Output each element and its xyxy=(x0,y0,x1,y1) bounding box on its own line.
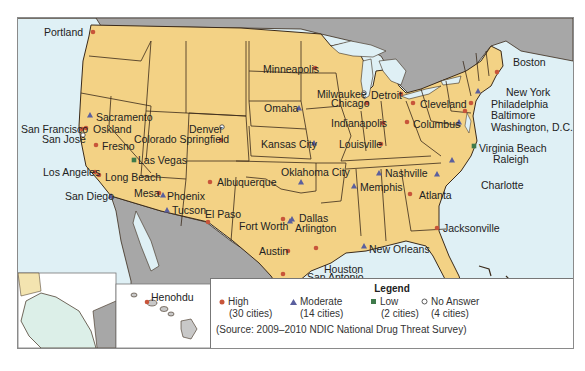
city-marker-high xyxy=(145,300,150,305)
legend: Legend High (30 cities) Moderate (14 cit… xyxy=(210,278,573,348)
city-marker-high xyxy=(314,246,319,251)
city-label: Cleveland xyxy=(420,98,467,110)
city-label: Raleigh xyxy=(493,153,529,165)
city-marker-high xyxy=(91,30,96,35)
city-marker-high xyxy=(206,220,211,225)
city-label: Boston xyxy=(513,56,546,68)
legend-item-low: Low (2 cities) xyxy=(371,296,419,320)
city-label: Austin xyxy=(259,245,288,257)
city-label: Las Vegas xyxy=(138,154,187,166)
city-label: Henohdu xyxy=(151,291,194,303)
low-square-icon xyxy=(371,296,377,308)
legend-item-moderate: Moderate (14 cities) xyxy=(290,296,343,320)
city-label: New York xyxy=(506,86,550,98)
city-marker-low xyxy=(472,144,477,149)
city-label: Long Beach xyxy=(105,171,161,183)
city-label: Memphis xyxy=(360,181,403,193)
city-label: San Diego xyxy=(65,190,114,202)
city-label: New Orleans xyxy=(369,243,430,255)
city-marker-high xyxy=(411,101,416,106)
city-label: Los Angeles xyxy=(43,166,100,178)
city-label: Baltimore xyxy=(491,109,535,121)
legend-source: (Source: 2009–2010 NDIC National Drug Th… xyxy=(216,324,467,335)
city-marker-low xyxy=(132,158,137,163)
city-label: Indianapolis xyxy=(331,117,387,129)
city-marker-high xyxy=(208,180,213,185)
city-label: Charlotte xyxy=(481,179,524,191)
legend-item-no-answer: No Answer (4 cities) xyxy=(421,296,479,320)
city-marker-high xyxy=(405,120,410,125)
city-label: Chicago xyxy=(331,97,370,109)
city-label: Oskland xyxy=(93,123,132,135)
city-marker-high xyxy=(469,101,474,106)
city-label: Mesa xyxy=(134,187,160,199)
city-label: Albuquerque xyxy=(217,176,277,188)
city-label: Washington, D.C. xyxy=(491,121,573,133)
city-label: Nashville xyxy=(385,167,428,179)
city-label: Fresno xyxy=(102,140,135,152)
city-label: Louisville xyxy=(339,138,382,150)
city-label: Jacksonville xyxy=(443,222,500,234)
legend-item-high: High (30 cities) xyxy=(219,296,272,320)
city-label: Columbus xyxy=(413,118,460,130)
city-label: Arlington xyxy=(295,222,336,234)
city-label: Phoenix xyxy=(167,190,205,202)
city-marker-high xyxy=(495,70,500,75)
city-label: Detroit xyxy=(371,89,402,101)
city-marker-high xyxy=(94,143,99,148)
high-dot-icon xyxy=(219,296,225,308)
city-label: Kansas City xyxy=(261,138,317,150)
city-label: Denver xyxy=(189,123,223,135)
city-label: Minneapolis xyxy=(263,63,319,75)
city-label: Portland xyxy=(44,26,83,38)
city-marker-high xyxy=(435,226,440,231)
city-label: Oklahoma City xyxy=(281,166,350,178)
city-label: Sacramento xyxy=(96,111,153,123)
legend-title: Legend xyxy=(211,283,573,294)
no-answer-circle-icon xyxy=(421,296,428,308)
city-marker-high xyxy=(408,192,413,197)
city-label: Fort Worth xyxy=(239,220,288,232)
city-label: Omaha xyxy=(264,102,298,114)
city-label: El Paso xyxy=(205,208,241,220)
city-label: Tucson xyxy=(172,204,206,216)
city-label: Atlanta xyxy=(419,189,452,201)
moderate-triangle-icon xyxy=(290,296,297,308)
city-label: San Jose xyxy=(42,133,86,145)
city-marker-high xyxy=(281,272,286,277)
